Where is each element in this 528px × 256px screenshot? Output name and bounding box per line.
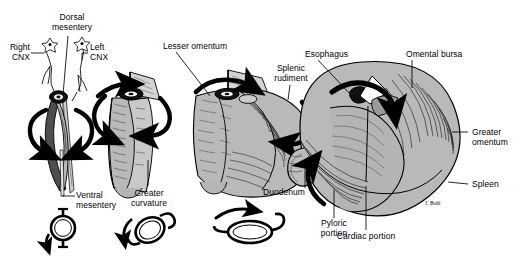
label-duodenum: Duodenum: [255, 187, 305, 197]
stage1-ventral-mesentery: [60, 150, 64, 196]
leader-splenic-rudiment: [288, 85, 290, 100]
label-left-cnx: Left CNX: [90, 42, 124, 62]
cross-section-1-group: [46, 208, 75, 248]
label-cardiac-portion: Cardiac portion: [329, 231, 403, 241]
cross-section-3-group: [214, 209, 284, 243]
figure-canvas: J. Bohl: [0, 0, 528, 256]
stage2-lumen: [119, 88, 143, 100]
label-right-cnx: Right CNX: [0, 42, 30, 62]
cross-section-2-group: [124, 212, 175, 247]
artist-signature: J. Bohl: [425, 200, 441, 206]
xsec3-mesentery-hook: [272, 214, 284, 230]
leader-dorsal-mesentery: [63, 36, 68, 95]
leader-spleen: [448, 182, 468, 184]
label-dorsal-mesentery: Dorsal mesentery: [36, 12, 108, 32]
left-ganglion-star: [74, 37, 90, 52]
label-greater-curvature: Greater curvature: [116, 188, 182, 208]
label-lesser-omentum: Lesser omentum: [163, 41, 253, 51]
label-greater-omentum: Greater omentum: [472, 127, 528, 147]
label-omental-bursa: Omental bursa: [406, 49, 482, 59]
right-ganglion-star: [42, 38, 58, 53]
stage1-lumen: [50, 91, 68, 103]
label-splenic-rudiment: Splenic rudiment: [262, 63, 320, 83]
xsec3-ventral-hook: [214, 226, 228, 232]
stage-4-group: J. Bohl: [288, 62, 460, 216]
xsec2-arrow: [124, 219, 132, 239]
label-spleen: Spleen: [472, 179, 522, 189]
stage1-rotation-arrow-right: [76, 110, 92, 153]
xsec1-arrow: [46, 234, 49, 246]
leader-lesser-omentum: [176, 52, 210, 96]
stage-2-group: [94, 72, 170, 198]
stage2-arrow-left: [94, 96, 109, 138]
stage-1-group: [30, 37, 92, 196]
left-vagus-nerve: [72, 44, 87, 101]
stage1-rotation-arrow-left: [30, 110, 46, 153]
label-esophagus: Esophagus: [305, 49, 363, 59]
stomach-rotation-illustration: J. Bohl: [0, 0, 528, 256]
xsec3-arrow: [216, 209, 252, 218]
